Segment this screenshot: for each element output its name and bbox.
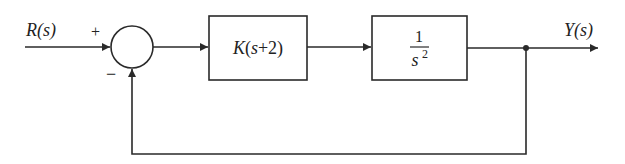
output-signal: Y(s) — [467, 20, 598, 51]
controller-block: K(s+2) K(s+2) — [209, 16, 307, 80]
summing-junction: + − — [91, 23, 153, 84]
plant-numerator: 1 — [415, 28, 423, 45]
output-label: Y(s) — [564, 20, 593, 41]
block-diagram: R(s) + − K(s+2) K(s+2) 1 s 2 Y(s) — [0, 0, 625, 164]
input-label: R(s) — [25, 20, 56, 41]
minus-sign: − — [106, 64, 116, 84]
summing-circle — [111, 26, 153, 68]
svg-text:K(s+2): K(s+2) — [232, 38, 283, 59]
plant-denominator-base: s — [411, 50, 418, 70]
plant-denominator-exponent: 2 — [422, 47, 428, 61]
plus-sign: + — [91, 23, 100, 40]
plant-box — [372, 16, 467, 80]
plant-block: 1 s 2 — [372, 16, 467, 80]
